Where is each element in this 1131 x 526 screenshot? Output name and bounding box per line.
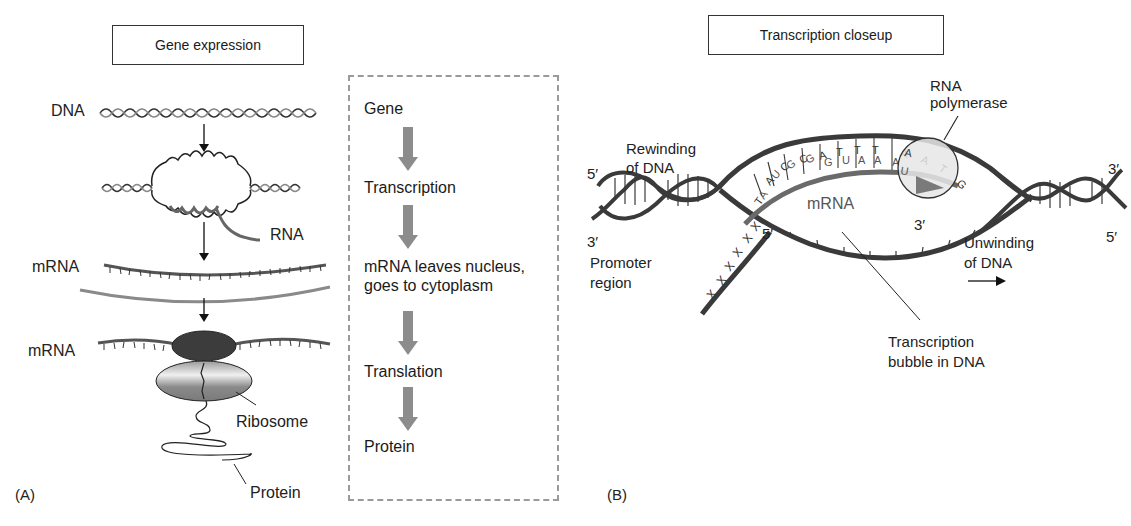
unwinding-label-line2: of DNA — [964, 254, 1012, 271]
panel-letter-b: (B) — [607, 486, 627, 503]
unwinding-label-line1: Unwinding — [964, 234, 1034, 251]
svg-text:X: X — [740, 231, 756, 246]
rna-polymerase-label-line2: polymerase — [930, 94, 1008, 111]
rna-polymerase-label-line1: RNA — [930, 77, 962, 94]
gene-expression-flowchart: Gene Transcription mRNA leaves nucleus, … — [348, 75, 559, 501]
svg-text:X: X — [730, 245, 746, 260]
flow-step-mrna-leaves-nucleus: mRNA leaves nucleus, goes to cytoplasm — [364, 257, 525, 295]
right-arrow-icon — [968, 276, 1006, 286]
mrna-label: mRNA — [807, 195, 854, 213]
svg-text:G: G — [955, 177, 970, 192]
svg-text:X: X — [704, 287, 720, 302]
bubble-label-line1: Transcription — [888, 333, 974, 350]
svg-text:A: A — [874, 154, 882, 166]
mrna-label-bottom: mRNA — [28, 342, 75, 360]
five-prime-mrna-label: 5′ — [762, 225, 773, 243]
panel-letter-a: (A) — [15, 486, 35, 503]
dna-helix-icon — [100, 109, 316, 117]
five-prime-left-label: 5′ — [587, 165, 598, 183]
protein-label: Protein — [250, 484, 301, 502]
three-prime-right-label: 3′ — [1108, 160, 1119, 178]
rna-polymerase-label: RNA polymerase — [930, 77, 1008, 111]
three-prime-mrna-label: 3′ — [914, 216, 925, 234]
dna-helix-right-icon — [980, 168, 1126, 232]
flow-down-arrow-icon — [398, 387, 414, 433]
rewinding-label-line2: of DNA — [626, 159, 674, 176]
promoter-region-label: Promoter region — [590, 253, 652, 293]
promoter-label-line1: Promoter — [590, 254, 652, 271]
mrna-label-top: mRNA — [32, 258, 79, 276]
flow-step-transcription: Transcription — [364, 178, 456, 197]
five-prime-right-label: 5′ — [1106, 228, 1117, 246]
rna-label: RNA — [270, 226, 304, 244]
svg-text:G: G — [824, 156, 833, 168]
promoter-x-marks: X X X X X X — [704, 219, 764, 302]
dna-helix-left-icon — [592, 173, 720, 220]
flow-step-protein: Protein — [364, 437, 415, 456]
three-prime-left-label: 3′ — [587, 233, 598, 251]
dna-label: DNA — [51, 102, 85, 120]
panel-transcription-closeup: Transcription closeup — [570, 0, 1131, 526]
unwinding-label: Unwinding of DNA — [964, 233, 1034, 273]
dna-trailing-strand — [702, 232, 770, 314]
svg-text:A: A — [858, 154, 866, 166]
nuclear-membrane — [80, 287, 330, 302]
rewinding-label-line1: Rewinding — [626, 140, 696, 157]
flow-step-gene: Gene — [364, 99, 403, 118]
mrna-strand-icon — [104, 265, 326, 281]
bubble-label-line2: bubble in DNA — [888, 353, 985, 370]
flow-step-mrna-line1: mRNA leaves nucleus, — [364, 258, 525, 275]
transcription-closeup-illustration: X X X X X X T A C C A T T T A A T G A U … — [570, 0, 1131, 526]
ribosome-label: Ribosome — [236, 413, 308, 431]
flow-down-arrow-icon — [398, 205, 414, 251]
flow-down-arrow-icon — [398, 127, 414, 173]
rna-polymerase-icon: A U — [898, 116, 958, 198]
flow-step-mrna-line2: goes to cytoplasm — [364, 277, 493, 294]
promoter-label-line2: region — [590, 274, 632, 291]
rewinding-label: Rewinding of DNA — [626, 139, 696, 177]
svg-text:U: U — [842, 154, 850, 166]
flow-down-arrow-icon — [398, 311, 414, 357]
bubble-leader-line — [842, 232, 920, 320]
flow-step-translation: Translation — [364, 362, 443, 381]
panel-gene-expression: Gene expression — [0, 0, 570, 526]
down-arrow-icon — [199, 222, 209, 261]
down-arrow-icon — [199, 124, 209, 152]
transcription-bubble-label: Transcription bubble in DNA — [888, 332, 985, 372]
